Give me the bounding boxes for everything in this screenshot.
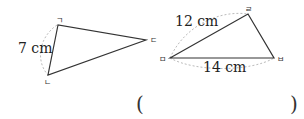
vertex-nieun: ㄴ — [44, 76, 51, 87]
answer-paren-open: ( — [136, 92, 144, 116]
triangles-figure — [0, 0, 304, 119]
side-label-7cm: 7 cm — [18, 40, 52, 56]
vertex-bieup: ㅂ — [277, 53, 284, 64]
side-label-12cm: 12 cm — [175, 13, 218, 29]
side-label-14cm: 14 cm — [203, 59, 246, 75]
vertex-rieul: ㄹ — [245, 3, 252, 14]
vertex-giyeok: ㄱ — [56, 14, 63, 25]
triangle-1 — [48, 25, 146, 75]
answer-paren-close: ) — [290, 92, 298, 116]
vertex-mieum: ㅁ — [159, 53, 166, 64]
vertex-digeut: ㄷ — [150, 34, 157, 45]
